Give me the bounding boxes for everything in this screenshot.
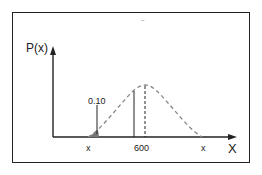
tick-label-left: x xyxy=(86,144,91,153)
y-axis-arrow-icon xyxy=(50,46,56,55)
tail-probability-label: 0.10 xyxy=(88,97,106,106)
x-axis-arrow-icon xyxy=(228,134,237,140)
y-axis-label: P(x) xyxy=(26,42,48,54)
tick-label-right: x xyxy=(201,144,206,153)
plot-area xyxy=(0,0,262,175)
tick-label-mean: 600 xyxy=(134,144,149,153)
top-mark: – xyxy=(141,17,144,23)
x-axis-label: X xyxy=(228,142,237,155)
